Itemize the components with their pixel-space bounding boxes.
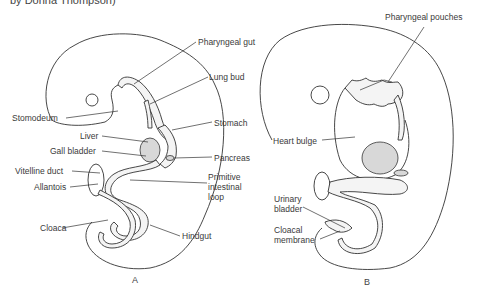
embryo-a-face-outline bbox=[52, 85, 118, 125]
embryo-a-eye bbox=[86, 94, 98, 106]
label-pancreas: Pancreas bbox=[214, 153, 250, 163]
label-heart-bulge: Heart bulge bbox=[273, 136, 317, 146]
label-pharyngeal-gut: Pharyngeal gut bbox=[198, 37, 255, 47]
label-allantois: Allantois bbox=[34, 182, 66, 192]
embryo-b-esophagus bbox=[394, 95, 404, 140]
label-gall-bladder: Gall bladder bbox=[50, 146, 96, 156]
label-stomach: Stomach bbox=[214, 118, 248, 128]
label-liver: Liver bbox=[80, 131, 98, 141]
panel-label-a: A bbox=[132, 275, 138, 285]
embryo-b-pharyngeal-pouches bbox=[345, 78, 403, 106]
embryo-b-vitelline-oval bbox=[314, 172, 330, 200]
label-urinary-bladder-1: Urinary bbox=[274, 194, 301, 204]
embryo-b-liver bbox=[362, 142, 398, 174]
embryo-b-pancreas bbox=[394, 170, 408, 176]
label-primitive-intestinal-loop-2: intestinal bbox=[208, 182, 242, 192]
label-urinary-bladder-2: bladder bbox=[274, 204, 302, 214]
embryo-b-cloaca bbox=[325, 220, 352, 232]
label-cloaca: Cloaca bbox=[40, 223, 66, 233]
label-stomodeum: Stomodeum bbox=[12, 113, 58, 123]
label-cloacal-membrane-2: membrane bbox=[274, 235, 315, 245]
label-hindgut: Hindgut bbox=[182, 231, 211, 241]
label-cloacal-membrane-1: Cloacal bbox=[274, 225, 302, 235]
label-primitive-intestinal-loop-1: Primitive bbox=[208, 172, 241, 182]
label-lung-bud: Lung bud bbox=[209, 72, 244, 82]
label-primitive-intestinal-loop-3: loop bbox=[208, 192, 224, 202]
embryo-a-pancreas bbox=[166, 156, 174, 161]
embryo-b-eye bbox=[311, 86, 329, 104]
label-vitelline-duct: Vitelline duct bbox=[15, 166, 63, 176]
label-pharyngeal-pouches: Pharyngeal pouches bbox=[385, 12, 463, 22]
panel-label-b: B bbox=[364, 277, 370, 287]
embryo-b-intestine bbox=[328, 177, 408, 253]
embryo-b-leaders bbox=[303, 27, 424, 239]
embryo-a-stomach bbox=[158, 125, 176, 168]
